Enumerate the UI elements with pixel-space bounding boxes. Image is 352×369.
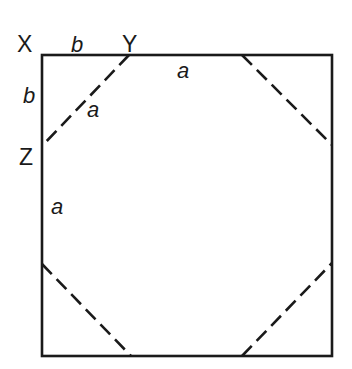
segment-xz-label: b: [23, 83, 35, 108]
top-right-cut: [242, 55, 332, 145]
top-left-cut: [42, 55, 129, 146]
point-z-label: Z: [19, 144, 33, 170]
octagon-in-square-diagram: X b Y b a Z a a: [0, 0, 352, 369]
point-x-label: X: [17, 31, 32, 57]
segment-yz-label: a: [87, 97, 99, 122]
bottom-right-cut: [242, 263, 332, 356]
corner-cuts: [42, 55, 332, 356]
bottom-left-cut: [42, 264, 131, 356]
octagon-top-side-label: a: [177, 58, 189, 83]
point-y-label: Y: [122, 31, 137, 57]
octagon-left-side-label: a: [51, 194, 63, 219]
segment-xy-label: b: [71, 32, 83, 57]
